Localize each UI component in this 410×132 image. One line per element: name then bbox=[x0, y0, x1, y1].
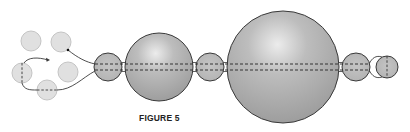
loose-beads bbox=[12, 31, 78, 100]
loose-bead-middle-left bbox=[12, 63, 32, 83]
loose-bead-bottom bbox=[37, 80, 57, 100]
arrow-strand bbox=[24, 58, 48, 63]
end-bead bbox=[376, 56, 398, 78]
figure-caption: FIGURE 5 bbox=[139, 113, 180, 123]
bead-chain-diagram bbox=[0, 0, 410, 132]
bead-4 bbox=[227, 11, 339, 123]
bead-3 bbox=[196, 53, 224, 81]
bead-2 bbox=[125, 33, 193, 101]
strand-end-dot bbox=[67, 49, 70, 52]
loose-bead-top-left bbox=[21, 31, 41, 51]
bead-5 bbox=[342, 53, 370, 81]
arrowhead-icon bbox=[46, 58, 50, 62]
bead-1 bbox=[94, 53, 122, 81]
chain-beads bbox=[94, 11, 370, 123]
loop-strand bbox=[22, 83, 37, 90]
top-strand bbox=[68, 50, 95, 64]
loose-bead-middle-right bbox=[58, 62, 78, 82]
